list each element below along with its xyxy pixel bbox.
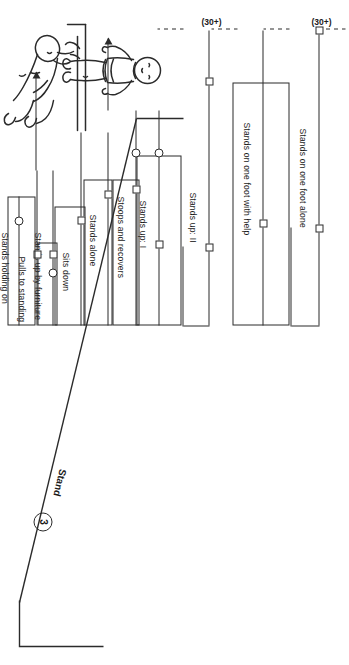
- marker-circle-stands-up-1[interactable]: [155, 148, 164, 157]
- marker-square-stands-up-1[interactable]: [155, 240, 163, 248]
- label-stands-on-one-foot-alone: Stands on one foot alone: [297, 128, 307, 227]
- marker-square-stands-up-2-b[interactable]: [205, 243, 213, 251]
- marker-square-stands-up-2[interactable]: [205, 77, 213, 85]
- stem-stands-up-by-furniture: [52, 170, 53, 325]
- tail-stands-on-one-foot-alone: [291, 325, 319, 326]
- marker-circle-stands-holding-on[interactable]: [15, 216, 24, 225]
- stem-stands-up-2: [208, 30, 209, 325]
- tail-stands-on-one-foot-alone-b: [290, 227, 291, 326]
- stem-stands-on-one-foot-alone: [318, 30, 319, 325]
- marker-circle-stands-up-by-furniture[interactable]: [49, 268, 58, 277]
- stem-stands-up-1: [158, 110, 159, 325]
- stem-sits-down: [80, 132, 81, 325]
- marker-square-stands-up-by-furniture[interactable]: [49, 250, 57, 258]
- stem-stoops-and-recovers: [135, 110, 136, 325]
- marker-square-sits-down[interactable]: [77, 216, 85, 224]
- dash-continuation-2: [263, 28, 289, 29]
- section-label: Stand: [51, 467, 68, 497]
- section-number-badge: 3: [33, 512, 52, 531]
- marker-square-stands-on-one-foot-alone-2[interactable]: [315, 224, 323, 232]
- label-stands-on-one-foot-with-help: Stands on one foot with help: [241, 122, 251, 235]
- band-stands-holding-on: [7, 196, 35, 325]
- age-note-upper: (30+): [311, 16, 331, 26]
- stem-stands-on-one-foot-with-help: [262, 30, 263, 325]
- illustration-child-pulling-to-stand: [0, 18, 91, 136]
- stem-pulls-to-standing: [36, 170, 37, 325]
- age-note-lower: (30+): [201, 16, 221, 26]
- label-stands-holding-on: Stands holding on: [0, 232, 9, 303]
- marker-square-stands-on-one-foot-alone[interactable]: [315, 26, 323, 34]
- marker-square-stoops-and-recovers[interactable]: [132, 185, 140, 193]
- stem-stands-holding-on: [18, 196, 19, 325]
- dash-continuation-3: [211, 28, 237, 29]
- label-sits-down: Sits down: [60, 252, 70, 291]
- rotated-chart-canvas: (30+) (30+) Stands on one foot alone Sta…: [0, 0, 349, 665]
- stem-stands-alone: [107, 132, 108, 325]
- marker-square-stands-alone[interactable]: [104, 190, 112, 198]
- label-stands-up-2: Stands up: II: [187, 192, 197, 242]
- figure-root: (30+) (30+) Stands on one foot alone Sta…: [0, 0, 349, 665]
- tail-stands-up-2-v: [183, 325, 209, 326]
- label-stands-alone: Stands alone: [87, 214, 97, 266]
- marker-square-stands-on-one-foot-with-help[interactable]: [259, 219, 267, 227]
- label-stoops-and-recovers: Stoops and recovers: [115, 196, 125, 278]
- marker-circle-stoops-and-recovers[interactable]: [132, 148, 141, 157]
- tail-stands-up-2-h: [182, 246, 183, 326]
